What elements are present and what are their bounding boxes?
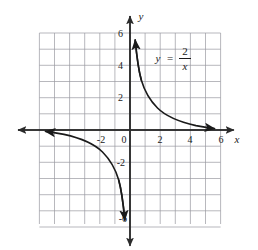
equation-equals-sign: = xyxy=(167,52,173,64)
x-tick-label-2: 2 xyxy=(158,134,163,145)
y-tick-label--2: -2 xyxy=(117,157,125,168)
x-tick-label-4: 4 xyxy=(188,134,193,145)
y-axis-label: y xyxy=(138,10,144,22)
y-tick-label--6: -6 xyxy=(119,213,127,224)
equation-lhs: y xyxy=(155,52,161,64)
graph-figure: x y -2 0 2 4 6 6 4 2 -2 -6 y = 2 x xyxy=(0,0,258,250)
y-tick-label-4: 4 xyxy=(118,60,123,71)
x-axis-label: x xyxy=(234,133,240,145)
x-tick-label-0: 0 xyxy=(122,134,127,145)
x-tick-label--2: -2 xyxy=(97,134,105,145)
equation-numerator: 2 xyxy=(182,45,188,57)
coordinate-plane-svg: x y -2 0 2 4 6 6 4 2 -2 -6 y = 2 x xyxy=(0,0,258,250)
y-tick-label-2: 2 xyxy=(118,92,123,103)
y-tick-label-6: 6 xyxy=(118,28,123,39)
x-tick-label-6: 6 xyxy=(219,134,224,145)
figure-background xyxy=(0,0,258,250)
equation-denominator: x xyxy=(182,60,188,72)
